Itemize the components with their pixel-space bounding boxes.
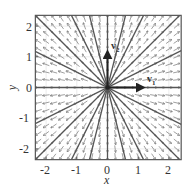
y-axis-label: y [5,85,20,90]
x-tick-1: 1 [135,164,141,176]
x-axis-label: x [104,173,109,187]
y-tick-0: 0 [26,82,32,94]
x-tick-neg1: -1 [71,164,81,176]
eigenvector-v1-label: v1 [147,73,156,87]
y-tick-2: 2 [26,21,32,33]
y-tick-1: 1 [26,51,32,63]
x-tick-neg2: -2 [40,164,50,176]
y-tick-neg1: -1 [19,112,29,124]
eigenvector-v2-label: v2 [111,40,120,54]
x-tick-2: 2 [165,164,171,176]
y-tick-neg2: -2 [19,143,29,155]
